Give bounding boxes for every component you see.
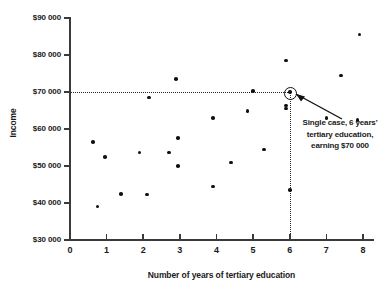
y-tick-label: $90 000	[0, 13, 61, 23]
data-point	[138, 151, 142, 155]
x-tick-label: 2	[131, 245, 155, 255]
y-tick-label: $30 000	[0, 235, 61, 245]
x-tick-mark	[252, 234, 254, 241]
x-tick-label: 0	[58, 245, 82, 255]
data-point	[176, 164, 180, 168]
y-tick-label-text: $80 000	[0, 50, 61, 59]
x-tick-mark	[69, 234, 71, 241]
x-tick-mark	[326, 234, 328, 241]
data-point	[147, 96, 151, 100]
x-tick-mark	[216, 234, 218, 241]
x-tick-label: 8	[351, 245, 375, 255]
y-tick-label-text: $50 000	[0, 161, 61, 170]
x-tick-mark	[106, 234, 108, 241]
y-tick-label-text: $30 000	[0, 235, 61, 244]
annotation-line-3: earning $70 000	[288, 140, 392, 152]
y-tick-mark	[64, 17, 71, 19]
scatter-chart: $30 000$40 000$50 000$60 000$70 000$80 0…	[0, 0, 392, 296]
data-point	[91, 140, 95, 144]
data-point	[211, 185, 215, 189]
guide-line-horizontal	[70, 92, 290, 93]
data-point	[284, 59, 288, 63]
x-tick-label: 7	[314, 245, 338, 255]
data-point	[339, 74, 343, 78]
x-tick-label: 1	[95, 245, 119, 255]
data-point	[211, 116, 215, 120]
data-point	[251, 89, 255, 93]
y-tick-label-text: $90 000	[0, 13, 61, 22]
data-point	[103, 155, 107, 159]
data-point	[145, 193, 149, 197]
x-tick-label: 5	[241, 245, 265, 255]
x-tick-mark	[179, 234, 181, 241]
y-tick-mark	[64, 202, 71, 204]
x-tick-label: 4	[205, 245, 229, 255]
data-point	[167, 151, 171, 155]
y-tick-label-text: $40 000	[0, 198, 61, 207]
x-axis-title: Number of years of tertiary education	[69, 270, 374, 280]
x-tick-label: 3	[168, 245, 192, 255]
x-tick-mark	[289, 234, 291, 241]
y-tick-label: $40 000	[0, 198, 61, 208]
y-tick-mark	[64, 165, 71, 167]
x-tick-label: 6	[278, 245, 302, 255]
annotation-label: Single case, 6 years' tertiary education…	[288, 117, 392, 152]
data-point	[246, 109, 250, 113]
data-point	[229, 161, 233, 165]
data-point	[358, 33, 362, 37]
annotation-line-2: tertiary education,	[288, 129, 392, 141]
data-point	[174, 77, 178, 81]
y-tick-mark	[64, 91, 71, 93]
x-axis-line	[69, 239, 374, 241]
x-tick-mark	[142, 234, 144, 241]
x-tick-mark	[362, 234, 364, 241]
data-point	[288, 188, 292, 192]
annotation-line-1: Single case, 6 years'	[288, 117, 392, 129]
y-tick-mark	[64, 128, 71, 130]
y-tick-label: $80 000	[0, 50, 61, 60]
data-point	[262, 148, 266, 152]
data-point	[96, 205, 100, 209]
y-axis-title: Income	[8, 93, 18, 153]
y-tick-label: $50 000	[0, 161, 61, 171]
y-tick-mark	[64, 54, 71, 56]
data-point	[119, 192, 123, 196]
data-point	[176, 136, 180, 140]
